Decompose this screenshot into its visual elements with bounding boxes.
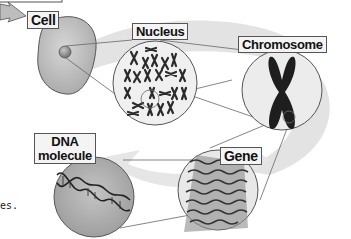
- nucleus-label: Nucleus: [132, 23, 188, 40]
- dna-molecule-illustration: [54, 157, 134, 237]
- cut-off-text: es.: [0, 200, 18, 211]
- cell-label: Cell: [27, 11, 59, 29]
- chromosome-illustration: [242, 50, 322, 130]
- dna-label-line2: molecule: [38, 149, 92, 163]
- chromosome-label: Chromosome: [238, 36, 327, 53]
- dna-molecule-label: DNA molecule: [34, 133, 96, 164]
- gene-label: Gene: [220, 147, 262, 165]
- dna-label-line1: DNA: [38, 135, 92, 149]
- nucleus-illustration: [113, 41, 197, 125]
